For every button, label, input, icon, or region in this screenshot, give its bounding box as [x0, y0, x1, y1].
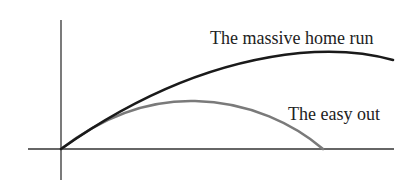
home-run-label: The massive home run	[210, 29, 373, 47]
easy-out-label: The easy out	[288, 105, 380, 123]
easy-out-curve	[61, 101, 323, 149]
home-run-curve	[61, 52, 393, 149]
trajectory-diagram: The massive home run The easy out	[0, 0, 419, 184]
